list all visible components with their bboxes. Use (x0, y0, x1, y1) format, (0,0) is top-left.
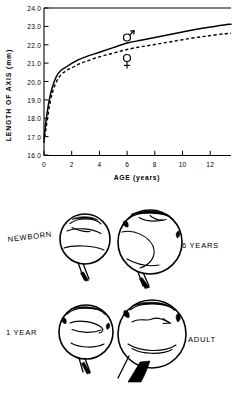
axial-length-growth-chart: LENGTH OF AXIS (mm) 24.0 23.0 22.0 21.0 … (0, 0, 235, 196)
female-symbol-icon (124, 55, 131, 69)
x-tick-label-0: 0 (42, 161, 46, 168)
y-tick-label-16: 16.0 (27, 152, 41, 159)
x-tick-label-2: 2 (70, 161, 74, 168)
x-tick-label-4: 4 (97, 161, 101, 168)
eye-diagram-newborn: NEWBORN (7, 214, 110, 281)
eye-diagrams-svg: NEWBORN 6 YEARS (0, 196, 235, 396)
eye-diagram-adult: ADULT (118, 300, 216, 382)
x-axis-title: AGE (years) (114, 174, 161, 182)
y-tick-label-23: 23.0 (27, 23, 41, 30)
x-tick-label-12: 12 (206, 161, 214, 168)
y-tick-label-22: 22.0 (27, 42, 41, 49)
x-axis-ticks (44, 151, 210, 156)
eye-growth-figure: LENGTH OF AXIS (mm) 24.0 23.0 22.0 21.0 … (0, 0, 235, 396)
y-tick-label-17: 17.0 (27, 134, 41, 141)
y-tick-label-19: 19.0 (27, 97, 41, 104)
y-axis-title: LENGTH OF AXIS (mm) (5, 49, 13, 141)
chart-svg: LENGTH OF AXIS (mm) 24.0 23.0 22.0 21.0 … (0, 0, 235, 196)
eye-label-one-year: 1 YEAR (6, 328, 37, 337)
eye-label-newborn: NEWBORN (7, 230, 52, 244)
eye-diagram-six-years: 6 YEARS (118, 210, 219, 289)
y-tick-label-18: 18.0 (27, 115, 41, 122)
eye-label-six-years: 6 YEARS (182, 241, 219, 250)
x-tick-label-10: 10 (179, 161, 187, 168)
y-tick-label-24: 24.0 (27, 5, 41, 12)
eye-label-adult: ADULT (188, 335, 216, 344)
y-tick-label-20: 20.0 (27, 79, 41, 86)
male-symbol-icon (124, 31, 135, 41)
female-growth-curve (44, 33, 231, 142)
male-growth-curve (44, 24, 231, 139)
eye-growth-diagrams: NEWBORN 6 YEARS (0, 196, 235, 396)
x-tick-label-6: 6 (125, 161, 129, 168)
eye-diagram-one-year: 1 YEAR (6, 305, 113, 374)
x-tick-label-8: 8 (153, 161, 157, 168)
y-tick-label-21: 21.0 (27, 60, 41, 67)
